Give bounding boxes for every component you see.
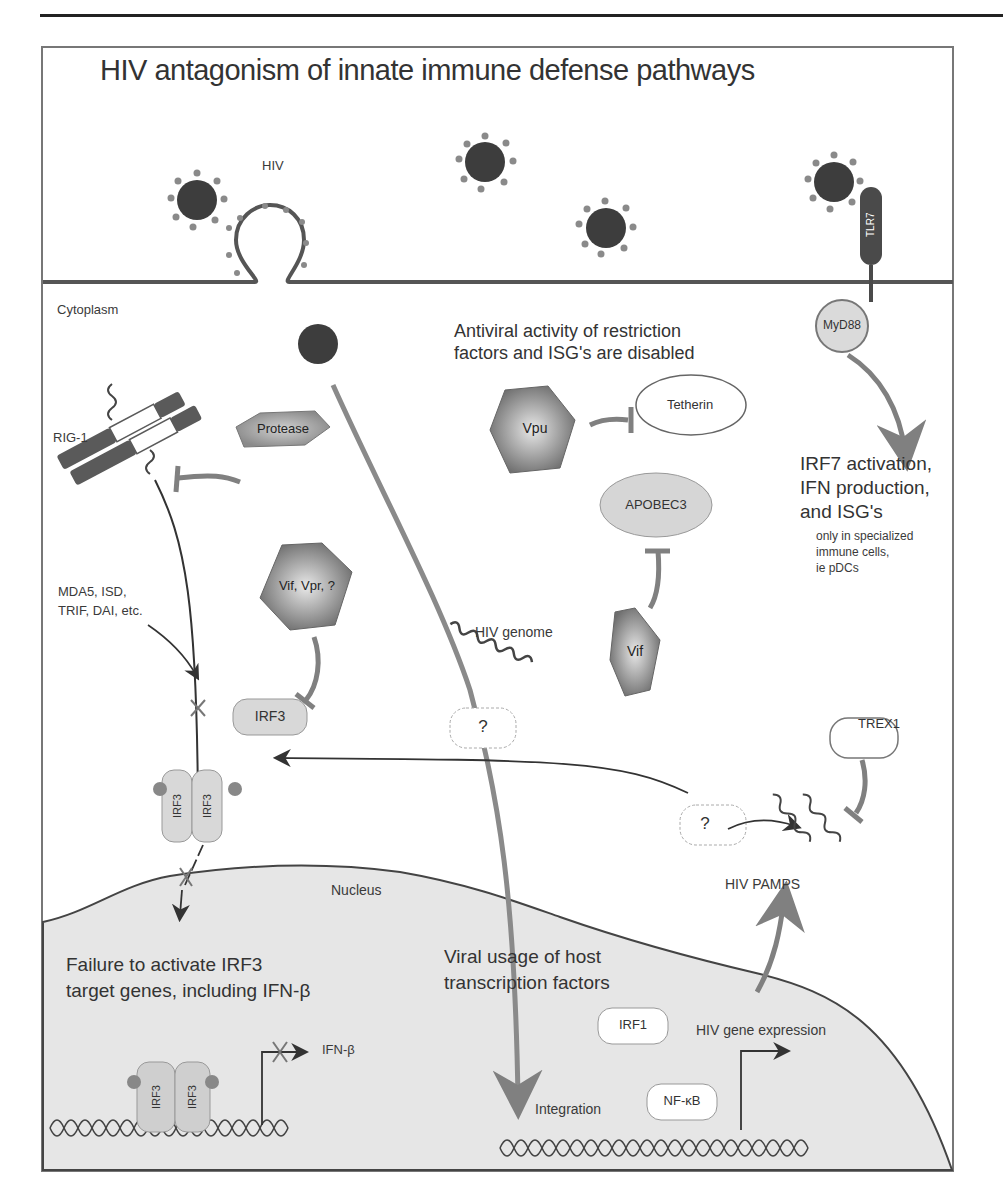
irf3-dimer-a-label: IRF3 — [162, 774, 192, 838]
vif-vpr-label: Vif, Vpr, ? — [262, 578, 352, 593]
irf3-dna-a-label: IRF3 — [137, 1068, 175, 1126]
tlr7-label: TLR7 — [860, 190, 882, 260]
tetherin-label: Tetherin — [640, 397, 740, 412]
hiv-virion-icon — [168, 170, 228, 231]
plasma-membrane — [43, 205, 953, 282]
irf1-label: IRF1 — [598, 1017, 668, 1032]
sensors-line1: MDA5, ISD, — [58, 584, 127, 599]
trex1-label: TREX1 — [845, 716, 913, 731]
sensors-line2: TRIF, DAI, etc. — [58, 603, 143, 618]
hiv-pamps-icon — [770, 792, 813, 844]
figure-title: HIV antagonism of innate immune defense … — [100, 54, 755, 87]
hiv-virion-icon — [456, 133, 517, 193]
hiv-virion-icon — [576, 198, 637, 258]
ifn-beta-label: IFN-β — [322, 1042, 355, 1057]
block-x-icon — [191, 700, 205, 716]
hiv-virion-icon — [805, 152, 864, 213]
viral-usage-heading: Viral usage of host transcription factor… — [444, 944, 610, 996]
myd88-label: MyD88 — [816, 318, 868, 332]
unknown-sensor-label: ? — [450, 717, 516, 737]
failure-heading: Failure to activate IRF3 target genes, i… — [66, 952, 310, 1004]
unknown-pamp-label: ? — [680, 814, 730, 834]
hiv-genome-label: HIV genome — [475, 624, 553, 640]
apobec3-label: APOBEC3 — [606, 497, 706, 512]
irf3-label: IRF3 — [233, 708, 307, 724]
nfkb-label: NF-κB — [647, 1093, 717, 1108]
irf7-note: only in specialized immune cells, ie pDC… — [816, 528, 913, 576]
restriction-heading: Antiviral activity of restriction factor… — [454, 320, 695, 364]
hiv-label: HIV — [262, 158, 284, 173]
vif-label: Vif — [612, 643, 658, 659]
integration-label: Integration — [535, 1101, 601, 1117]
irf7-heading: IRF7 activation, IFN production, and ISG… — [800, 452, 932, 524]
irf3-dimer-b-label: IRF3 — [192, 774, 222, 838]
cytoplasm-label: Cytoplasm — [57, 302, 118, 317]
nucleus-label: Nucleus — [331, 882, 382, 898]
irf3-dna-b-label: IRF3 — [175, 1068, 210, 1126]
protease-label: Protease — [240, 421, 326, 436]
rig1-label: RIG-1 — [53, 430, 88, 445]
hiv-pamps-label: HIV PAMPS — [725, 876, 800, 892]
viral-core-icon — [298, 324, 338, 364]
vpu-label: Vpu — [500, 420, 570, 436]
hiv-gene-expression-label: HIV gene expression — [696, 1022, 826, 1038]
